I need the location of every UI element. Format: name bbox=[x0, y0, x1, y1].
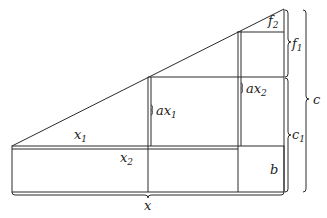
label-x: x bbox=[144, 198, 152, 213]
label-ax2: ax2 bbox=[246, 81, 267, 98]
label-x2: x2 bbox=[120, 150, 133, 167]
c1-brace bbox=[285, 78, 291, 192]
diagram-canvas: x1 x2 x ax1 ax2 f2 f1 c1 c b bbox=[0, 0, 327, 218]
label-f1: f1 bbox=[291, 36, 303, 53]
label-b: b bbox=[270, 162, 278, 177]
f1-brace bbox=[285, 10, 291, 77]
c-brace bbox=[303, 10, 309, 192]
label-c: c bbox=[313, 92, 321, 107]
label-x1: x1 bbox=[74, 127, 87, 144]
label-ax1: ax1 bbox=[156, 103, 177, 120]
label-c1: c1 bbox=[292, 127, 305, 144]
label-f2: f2 bbox=[267, 13, 279, 30]
